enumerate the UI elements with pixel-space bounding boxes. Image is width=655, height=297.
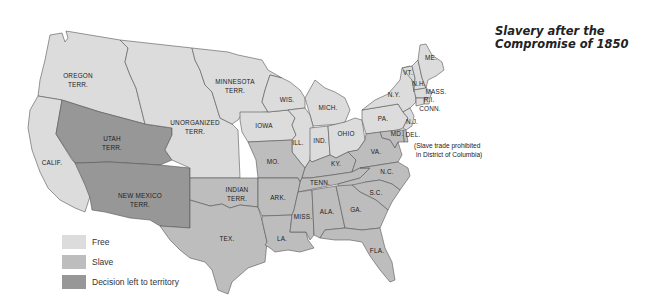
legend-item-free: Free	[62, 232, 179, 252]
label-ri: R.I.	[424, 96, 435, 103]
map-title: Slavery after the Compromise of 1850	[495, 25, 655, 51]
legend-label-slave: Slave	[92, 257, 113, 267]
label-va: VA.	[371, 148, 381, 155]
label-md: MD.	[391, 130, 403, 137]
label-tenn: TENN.	[310, 179, 330, 186]
label-ohio: OHIO	[337, 130, 354, 137]
legend-swatch-free	[62, 235, 86, 249]
label-mo: MO.	[267, 158, 280, 165]
label-nh: N.H.	[412, 80, 426, 87]
label-sc: S.C.	[369, 189, 382, 196]
label-unorganized-terr: TERR.	[185, 128, 205, 135]
label-miss: MISS.	[294, 213, 312, 220]
label-tex: TEX.	[219, 235, 234, 242]
label-ny: N.Y.	[388, 91, 400, 98]
dc-annotation-line1: (Slave trade prohibited	[414, 142, 481, 150]
label-ind: IND.	[313, 137, 327, 144]
legend-swatch-decision	[62, 275, 86, 289]
label-minnesota-terr: TERR.	[225, 87, 245, 94]
label-new-mexico: NEW MEXICO	[118, 192, 162, 199]
label-wis: WIS.	[280, 96, 295, 103]
label-me: ME.	[425, 54, 437, 61]
label-mass: MASS.	[426, 88, 447, 95]
label-del: DEL.	[405, 131, 420, 138]
label-ga: GA.	[350, 206, 362, 213]
label-minnesota: MINNESOTA	[215, 78, 255, 85]
legend: Free Slave Decision left to territory	[62, 232, 179, 292]
label-indian-terr: TERR.	[227, 195, 247, 202]
label-la: LA.	[277, 235, 287, 242]
legend-label-decision: Decision left to territory	[92, 277, 179, 287]
label-vt: VT.	[403, 69, 413, 76]
label-oregon: OREGON	[63, 72, 93, 79]
label-iowa: IOWA	[255, 122, 273, 129]
label-fla: FLA.	[370, 247, 384, 254]
label-oregon-terr: TERR.	[68, 81, 88, 88]
region-michigan[interactable]	[305, 80, 350, 126]
dc-annotation-line2: in District of Columbia)	[416, 151, 482, 159]
legend-swatch-slave	[62, 255, 86, 269]
label-pa: PA.	[378, 115, 388, 122]
legend-label-free: Free	[92, 237, 109, 247]
region-florida[interactable]	[320, 228, 395, 282]
label-nj: N.J.	[406, 118, 418, 125]
label-nc: N.C.	[380, 168, 394, 175]
label-ill: ILL.	[292, 139, 303, 146]
region-wisconsin[interactable]	[262, 75, 305, 112]
label-new-mexico-terr: TERR.	[130, 201, 150, 208]
label-ky: KY.	[331, 160, 341, 167]
label-unorganized: UNORGANIZED	[170, 119, 220, 126]
label-conn: CONN.	[419, 105, 441, 112]
label-mich: MICH.	[318, 104, 337, 111]
label-ark: ARK.	[270, 194, 286, 201]
label-calif: CALIF.	[42, 159, 62, 166]
legend-item-decision: Decision left to territory	[62, 272, 179, 292]
legend-item-slave: Slave	[62, 252, 179, 272]
label-utah-terr: TERR.	[102, 144, 122, 151]
label-ala: ALA.	[320, 208, 335, 215]
label-utah: UTAH	[103, 135, 121, 142]
label-indian: INDIAN	[226, 186, 249, 193]
